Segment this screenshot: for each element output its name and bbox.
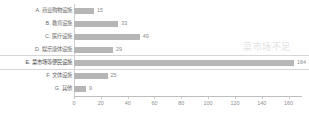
x-tick-label: 0 bbox=[73, 100, 76, 106]
table-row[interactable]: A. 商业购物设施15 bbox=[0, 4, 309, 17]
bar[interactable] bbox=[74, 73, 108, 79]
bar-track: 164 bbox=[74, 56, 309, 69]
x-tick-label: 40 bbox=[125, 100, 131, 106]
bar[interactable] bbox=[74, 21, 118, 27]
bar-rows: A. 商业购物设施15B. 教育设施33C. 医疗设施49D. 娱乐康体设施29… bbox=[0, 4, 309, 95]
bar-track: 9 bbox=[74, 82, 309, 95]
bar-value-label: 15 bbox=[97, 4, 103, 17]
bar-track: 15 bbox=[74, 4, 309, 17]
x-tick-label: 140 bbox=[257, 100, 266, 106]
bar-value-label: 33 bbox=[121, 17, 127, 30]
x-tick-label: 60 bbox=[151, 100, 157, 106]
bar-value-label: 29 bbox=[116, 43, 122, 56]
bar[interactable] bbox=[74, 34, 140, 40]
bar-value-label: 9 bbox=[89, 82, 92, 95]
x-tick-mark bbox=[154, 97, 155, 99]
x-tick-mark bbox=[181, 97, 182, 99]
plot-area: A. 商业购物设施15B. 教育设施33C. 医疗设施49D. 娱乐康体设施29… bbox=[0, 0, 309, 116]
bar-value-label: 25 bbox=[111, 69, 117, 82]
bar-track: 29 bbox=[74, 43, 309, 56]
bar[interactable] bbox=[74, 47, 113, 53]
x-axis-ticks: 020406080100120140160 bbox=[0, 97, 309, 111]
table-row[interactable]: C. 医疗设施49 bbox=[0, 30, 309, 43]
x-tick-label: 160 bbox=[284, 100, 293, 106]
x-tick-label: 100 bbox=[204, 100, 213, 106]
bar-value-label: 49 bbox=[143, 30, 149, 43]
bar[interactable] bbox=[74, 86, 86, 92]
x-tick-label: 20 bbox=[98, 100, 104, 106]
x-tick-mark bbox=[128, 97, 129, 99]
bar-category-label: D. 娱乐康体设施 bbox=[0, 43, 74, 56]
table-row[interactable]: D. 娱乐康体设施29 bbox=[0, 43, 309, 56]
bar-value-label: 164 bbox=[297, 56, 306, 69]
bar-track: 49 bbox=[74, 30, 309, 43]
bar-category-label: C. 医疗设施 bbox=[0, 30, 74, 43]
x-tick-mark bbox=[208, 97, 209, 99]
x-tick-mark bbox=[262, 97, 263, 99]
table-row[interactable]: F. 文体设施25 bbox=[0, 69, 309, 82]
bar-category-label: F. 文体设施 bbox=[0, 69, 74, 82]
x-tick-label: 120 bbox=[230, 100, 239, 106]
bar[interactable] bbox=[74, 60, 294, 66]
x-tick-label: 80 bbox=[178, 100, 184, 106]
bar-category-label: G. 其他 bbox=[0, 82, 74, 95]
bar-category-label: E. 菜市场等便民设施 bbox=[0, 56, 74, 69]
x-tick-mark bbox=[235, 97, 236, 99]
bar-track: 33 bbox=[74, 17, 309, 30]
x-tick-mark bbox=[74, 97, 75, 99]
x-tick-mark bbox=[101, 97, 102, 99]
bar-track: 25 bbox=[74, 69, 309, 82]
table-row[interactable]: B. 教育设施33 bbox=[0, 17, 309, 30]
bar-category-label: A. 商业购物设施 bbox=[0, 4, 74, 17]
x-tick-mark bbox=[289, 97, 290, 99]
table-row[interactable]: G. 其他9 bbox=[0, 82, 309, 95]
bar[interactable] bbox=[74, 8, 94, 14]
table-row[interactable]: E. 菜市场等便民设施164 bbox=[0, 56, 309, 69]
bar-chart: 菜市场不足 A. 商业购物设施15B. 教育设施33C. 医疗设施49D. 娱乐… bbox=[0, 0, 309, 116]
bar-category-label: B. 教育设施 bbox=[0, 17, 74, 30]
